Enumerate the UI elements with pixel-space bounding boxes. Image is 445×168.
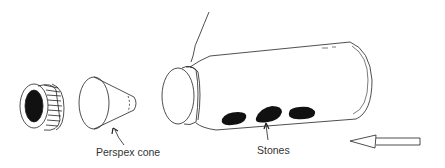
flow-arrow xyxy=(350,135,420,148)
string xyxy=(191,12,209,62)
label-stones: Stones xyxy=(257,144,290,156)
stones xyxy=(222,106,315,125)
screw-cap xyxy=(20,84,64,130)
label-perspex-cone: Perspex cone xyxy=(96,146,160,158)
diagram-svg xyxy=(0,0,445,168)
perspex-cone xyxy=(79,77,136,145)
diagram-canvas: Perspex cone Stones xyxy=(0,0,445,168)
